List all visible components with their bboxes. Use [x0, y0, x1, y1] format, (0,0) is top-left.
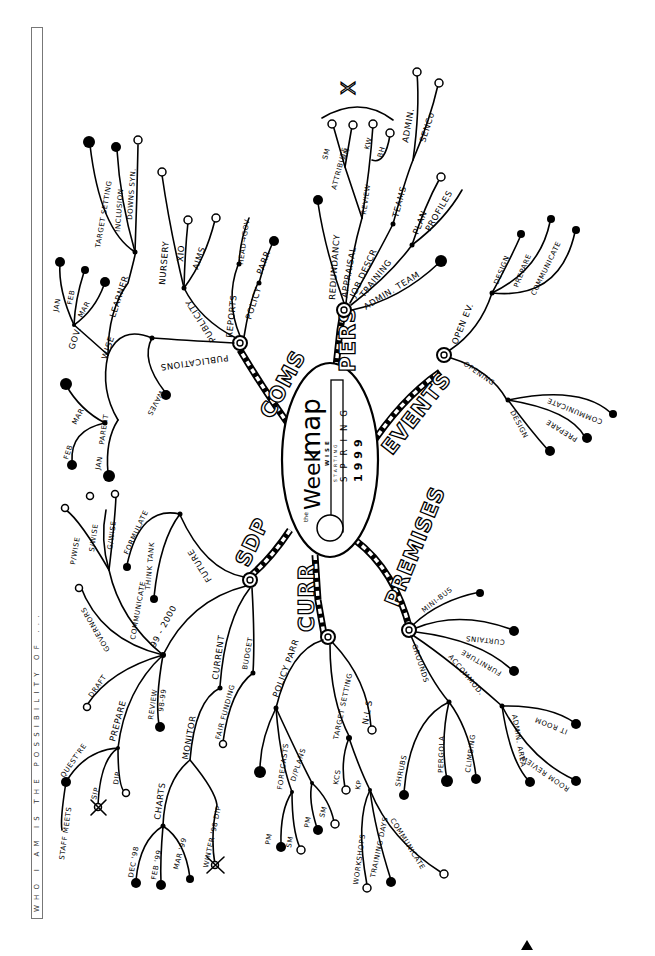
svg-text:PREPARE: PREPARE — [545, 417, 579, 443]
svg-text:COMMUNICATE: COMMUNICATE — [129, 581, 147, 641]
x-mark-icon: X — [336, 81, 360, 95]
center-ellipse: the Week map WISE STARTING SPRING 1999 — [282, 363, 378, 557]
svg-text:DESIGN: DESIGN — [492, 254, 511, 285]
svg-text:PARENT: PARENT — [98, 413, 110, 445]
svg-text:GOVERNORS: GOVERNORS — [80, 605, 112, 653]
svg-text:KCS: KCS — [332, 769, 343, 785]
svg-text:INCLUSION: INCLUSION — [114, 188, 125, 232]
svg-text:PROFILES: PROFILES — [423, 189, 454, 233]
branch-pers: REDUNDANCY APPRAISAL ATTRIBUTE SM AM REV… — [313, 68, 462, 312]
pers-hub — [337, 303, 351, 317]
svg-text:PUBLICATIONS: PUBLICATIONS — [160, 353, 230, 372]
center-year: 1999 — [352, 435, 365, 482]
svg-text:99 - 2000: 99 - 2000 — [148, 603, 179, 649]
svg-text:DRAFT: DRAFT — [87, 673, 109, 699]
svg-text:KP: KP — [354, 779, 364, 790]
svg-text:CURTAINS: CURTAINS — [465, 634, 505, 646]
svg-text:PARR: PARR — [254, 249, 272, 276]
branch-label-premises: PREMISES — [380, 483, 450, 610]
svg-text:OPEN EV.: OPEN EV. — [450, 301, 476, 345]
svg-text:FAIR FUNDING: FAIR FUNDING — [214, 683, 236, 740]
svg-text:TRAINING DAYS: TRAINING DAYS — [369, 816, 390, 879]
svg-text:PUBLICITY: PUBLICITY — [183, 298, 217, 345]
svg-text:XIO: XIO — [175, 245, 186, 263]
svg-text:CHARTS: CHARTS — [152, 782, 167, 821]
svg-text:NURSERY: NURSERY — [157, 240, 171, 285]
svg-text:GOV.: GOV. — [66, 326, 83, 351]
svg-text:P/WISE: P/WISE — [69, 536, 82, 565]
svg-text:SIP: SIP — [90, 786, 101, 800]
svg-text:SM: SM — [285, 835, 295, 848]
svg-text:FORMULATE: FORMULATE — [123, 509, 151, 556]
branch-sdp: FUTURE FORMULATE THINK TANK COMMUNICATE … — [58, 491, 255, 891]
svg-text:STAFF MEETS: STAFF MEETS — [58, 806, 73, 860]
center-week: Week — [300, 449, 325, 510]
svg-text:HEAD→GOV: HEAD→GOV — [237, 218, 251, 265]
sdp-hub — [243, 573, 257, 587]
svg-text:OPENING: OPENING — [462, 360, 496, 387]
svg-text:AIMS: AIMS — [190, 245, 207, 270]
branch-label-events: EVENTS — [377, 367, 456, 459]
svg-text:N·L·S: N·L·S — [360, 699, 374, 725]
svg-text:MAR '99: MAR '99 — [172, 837, 188, 871]
branch-coms: PUBLICATIONS WAVES PUBLICITY NURSERY XIO… — [52, 136, 279, 482]
svg-text:JAN: JAN — [94, 455, 104, 471]
svg-text:POLICY PARR: POLICY PARR — [270, 637, 300, 698]
svg-text:REVIEW: REVIEW — [360, 183, 372, 215]
svg-text:PERGOLA: PERGOLA — [437, 735, 446, 773]
svg-text:ADMIN.: ADMIN. — [400, 107, 416, 143]
svg-text:SENCo: SENCo — [417, 111, 436, 144]
svg-text:BH: BH — [376, 146, 387, 159]
svg-text:SM: SM — [321, 147, 332, 160]
svg-text:MINI-BUS: MINI-BUS — [420, 586, 454, 615]
svg-text:MONITOR: MONITOR — [180, 714, 198, 760]
svg-text:G/WISE: G/WISE — [106, 520, 118, 550]
svg-text:TEAMS: TEAMS — [390, 185, 408, 220]
svg-text:REPORTS: REPORTS — [224, 294, 238, 338]
svg-text:WAVES: WAVES — [145, 389, 165, 417]
svg-text:POLICY: POLICY — [243, 285, 263, 320]
center-the: the — [302, 512, 309, 522]
svg-text:COMMUNICATE: COMMUNICATE — [388, 817, 426, 872]
svg-text:COMMUNICATE: COMMUNICATE — [530, 240, 563, 297]
svg-text:LEARNER: LEARNER — [107, 274, 130, 319]
svg-text:TARGET SETTING: TARGET SETTING — [332, 672, 354, 741]
svg-text:GROUNDS: GROUNDS — [410, 643, 430, 684]
center-wise: WISE — [324, 438, 330, 466]
center-starting: STARTING — [333, 442, 338, 482]
svg-text:JAN: JAN — [52, 297, 62, 313]
curr-hub — [321, 630, 335, 644]
svg-text:TARGET SETTING: TARGET SETTING — [94, 180, 114, 249]
center-map: map — [296, 398, 326, 456]
svg-text:S/WISE: S/WISE — [88, 523, 100, 552]
svg-text:WORKSHOPS: WORKSHOPS — [352, 833, 367, 885]
svg-text:PREPARE: PREPARE — [512, 253, 533, 289]
center-season: SPRING — [339, 402, 349, 482]
svg-text:D/PLANS: D/PLANS — [289, 747, 307, 782]
svg-text:SM: SM — [318, 805, 329, 818]
events-hub — [437, 348, 451, 362]
svg-text:PM: PM — [264, 833, 274, 846]
svg-text:IT ROOM: IT ROOM — [534, 715, 569, 735]
svg-text:FUTURE: FUTURE — [185, 547, 213, 584]
branch-label-curr: CURR — [295, 563, 319, 632]
branch-premises: MINI-BUS CURTAINS FURNITURE ACCOMMOD. IT… — [394, 586, 581, 800]
mind-map: the Week map WISE STARTING SPRING 1999 C… — [0, 0, 655, 956]
svg-text:WINTER '98 DIP: WINTER '98 DIP — [202, 805, 223, 868]
svg-text:KW: KW — [363, 136, 374, 150]
svg-text:PM: PM — [303, 816, 313, 829]
svg-text:PREPARE: PREPARE — [107, 699, 128, 742]
premises-hub — [402, 623, 416, 637]
svg-text:FEB: FEB — [66, 289, 76, 305]
branch-curr: POLICY PARR FORECASTS PM SM D/PLANS PM S… — [254, 637, 448, 892]
branch-events: OPEN EV. DESIGN PREPARE COMMUNICATE OPEN… — [450, 215, 617, 456]
svg-text:MAR: MAR — [71, 407, 86, 426]
